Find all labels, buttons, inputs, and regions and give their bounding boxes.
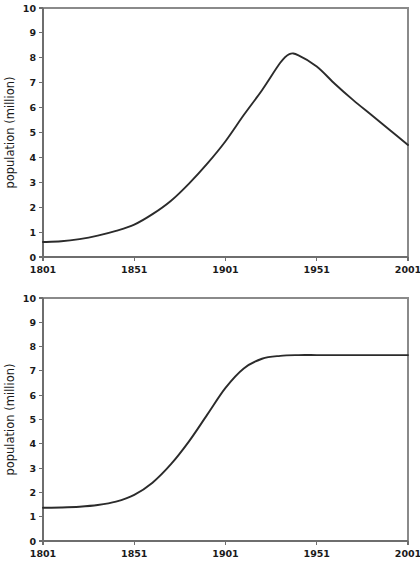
- y-tick-label: 7: [29, 77, 36, 88]
- y-tick-label: 9: [29, 317, 36, 328]
- y-tick-label: 3: [29, 177, 36, 188]
- y-axis-title: population (million): [3, 76, 17, 188]
- x-tick-label: 1801: [30, 264, 56, 275]
- y-tick-label: 8: [29, 341, 36, 352]
- y-tick-label: 5: [29, 414, 36, 425]
- data-series-line: [43, 355, 408, 508]
- chart-top: 01234567891018011851190119512001populati…: [0, 0, 420, 290]
- y-axis-title: population (million): [3, 363, 17, 475]
- y-tick-label: 1: [29, 227, 36, 238]
- x-tick-label: 1951: [304, 264, 330, 275]
- chart-top-canvas: 01234567891018011851190119512001populati…: [0, 0, 420, 290]
- data-series-line: [43, 53, 408, 242]
- y-tick-label: 9: [29, 27, 36, 38]
- y-tick-label: 6: [29, 102, 36, 113]
- y-tick-label: 2: [29, 202, 36, 213]
- chart-bottom: 01234567891018011851190119512001populati…: [0, 290, 420, 581]
- x-tick-label: 1901: [212, 548, 238, 559]
- y-tick-label: 10: [23, 3, 37, 14]
- y-tick-label: 4: [29, 438, 36, 449]
- y-tick-label: 8: [29, 52, 36, 63]
- y-tick-label: 3: [29, 463, 36, 474]
- y-tick-label: 10: [23, 293, 37, 304]
- y-tick-label: 4: [29, 152, 36, 163]
- x-tick-label: 1851: [121, 548, 147, 559]
- plot-frame: [43, 8, 408, 257]
- y-tick-label: 1: [29, 511, 36, 522]
- x-tick-label: 1901: [212, 264, 238, 275]
- y-tick-label: 7: [29, 365, 36, 376]
- chart-page: 01234567891018011851190119512001populati…: [0, 0, 420, 581]
- x-tick-label: 1851: [121, 264, 147, 275]
- y-tick-label: 2: [29, 487, 36, 498]
- x-tick-label: 1801: [30, 548, 56, 559]
- x-tick-label: 2001: [395, 548, 420, 559]
- chart-bottom-canvas: 01234567891018011851190119512001populati…: [0, 290, 420, 581]
- y-tick-label: 0: [29, 536, 36, 547]
- y-tick-label: 5: [29, 127, 36, 138]
- y-tick-label: 0: [29, 252, 36, 263]
- y-tick-label: 6: [29, 390, 36, 401]
- x-tick-label: 2001: [395, 264, 420, 275]
- x-tick-label: 1951: [304, 548, 330, 559]
